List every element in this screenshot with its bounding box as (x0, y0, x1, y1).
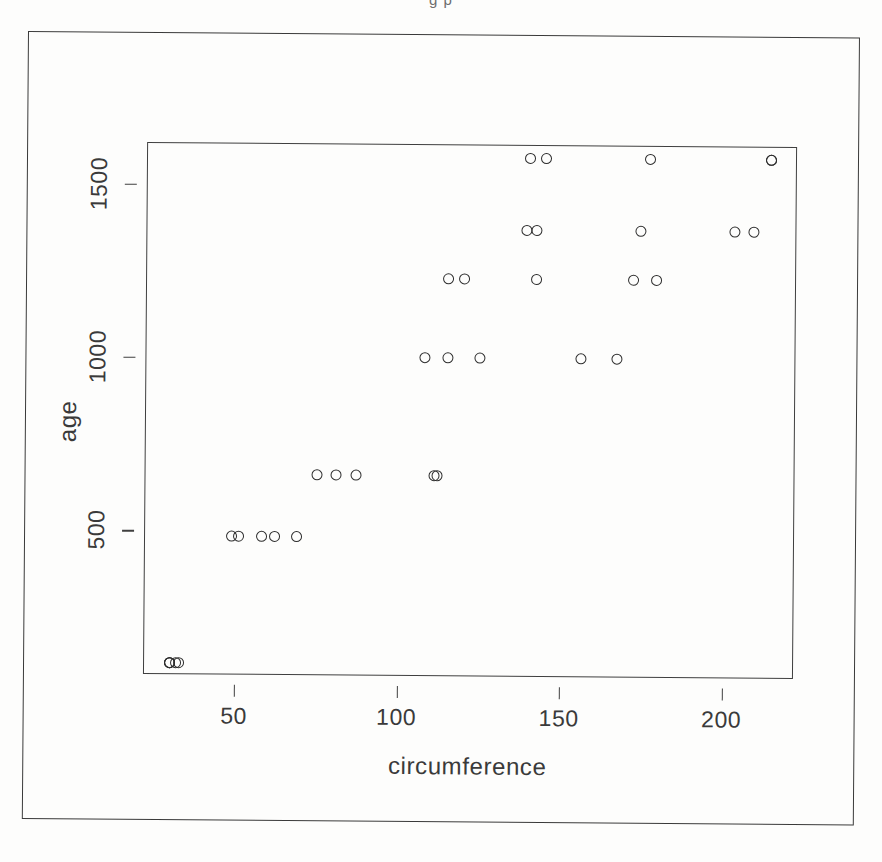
x-tick-mark (234, 685, 235, 697)
data-point (443, 274, 454, 285)
data-point (525, 153, 536, 164)
x-tick-mark (396, 686, 397, 698)
cut-off-top-text: g p (0, 0, 882, 8)
data-point (268, 531, 279, 542)
x-tick-label: 100 (351, 704, 441, 732)
data-point (628, 275, 639, 286)
data-point (350, 469, 361, 480)
data-point (164, 657, 175, 668)
data-point (749, 227, 760, 238)
data-point (475, 353, 486, 364)
y-axis-title: age (53, 361, 82, 481)
y-tick-label: 1000 (84, 311, 111, 401)
y-tick-label: 500 (83, 485, 110, 575)
y-tick-mark (123, 357, 135, 358)
x-axis-title: circumference (142, 750, 792, 783)
data-point (765, 154, 776, 165)
data-point (419, 352, 430, 363)
data-point (541, 153, 552, 164)
data-points-layer (143, 142, 797, 679)
data-point (431, 470, 442, 481)
data-point (291, 531, 302, 542)
data-point (521, 225, 532, 236)
data-point (575, 353, 586, 364)
data-point (635, 226, 646, 237)
data-point (729, 227, 740, 238)
data-point (255, 531, 266, 542)
x-tick-mark (559, 687, 560, 699)
y-tick-mark (125, 183, 137, 184)
data-point (459, 274, 470, 285)
x-tick-label: 50 (189, 702, 279, 730)
x-tick-label: 150 (514, 705, 604, 733)
x-tick-label: 200 (676, 706, 766, 734)
scatter-plot-figure: 50100150200 50010001500 circumference ag… (22, 31, 858, 823)
data-point (442, 352, 453, 363)
y-tick-label: 1500 (85, 138, 112, 228)
data-point (645, 154, 656, 165)
x-tick-mark (721, 688, 722, 700)
data-point (531, 225, 542, 236)
y-tick-mark (122, 530, 134, 531)
data-point (651, 275, 662, 286)
data-point (611, 354, 622, 365)
data-point (311, 469, 322, 480)
data-point (331, 469, 342, 480)
data-point (531, 274, 542, 285)
